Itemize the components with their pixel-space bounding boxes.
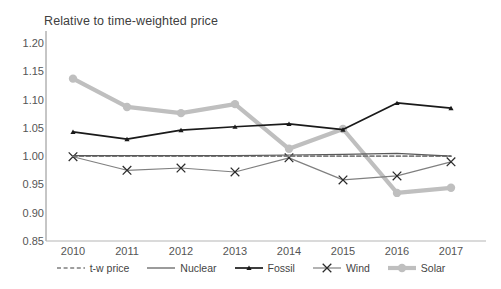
legend-item-solar[interactable]: Solar <box>387 262 446 274</box>
legend-label: Fossil <box>268 262 295 274</box>
data-point-marker <box>393 189 401 197</box>
legend-label: Solar <box>421 262 446 274</box>
data-point-marker <box>447 184 455 192</box>
data-point-marker <box>231 100 239 108</box>
solid-line-triangle-marker-icon <box>234 262 264 274</box>
legend-item-nuclear[interactable]: Nuclear <box>146 262 216 274</box>
solid-line-icon <box>146 262 176 274</box>
legend-item-fossil[interactable]: Fossil <box>234 262 295 274</box>
chart-container: Relative to time-weighted price 1.201.15… <box>0 0 501 289</box>
data-point-marker <box>123 103 131 111</box>
legend-label: Nuclear <box>180 262 216 274</box>
dashed-line-icon <box>56 262 86 274</box>
thick-line-circle-marker-icon <box>387 262 417 274</box>
data-point-marker <box>69 74 77 82</box>
legend-item-t-w-price[interactable]: t-w price <box>56 262 130 274</box>
legend-label: Wind <box>346 262 370 274</box>
legend-marker <box>398 264 406 272</box>
chart-legend: t-w priceNuclearFossilWindSolar <box>0 262 501 274</box>
solid-line-x-marker-icon <box>312 262 342 274</box>
series-wind <box>69 152 456 184</box>
series-solar <box>69 74 455 197</box>
data-point-marker <box>285 145 293 153</box>
data-point-marker <box>447 158 456 167</box>
plot-area <box>0 0 501 289</box>
legend-item-wind[interactable]: Wind <box>312 262 370 274</box>
data-point-marker <box>177 109 185 117</box>
legend-label: t-w price <box>90 262 130 274</box>
